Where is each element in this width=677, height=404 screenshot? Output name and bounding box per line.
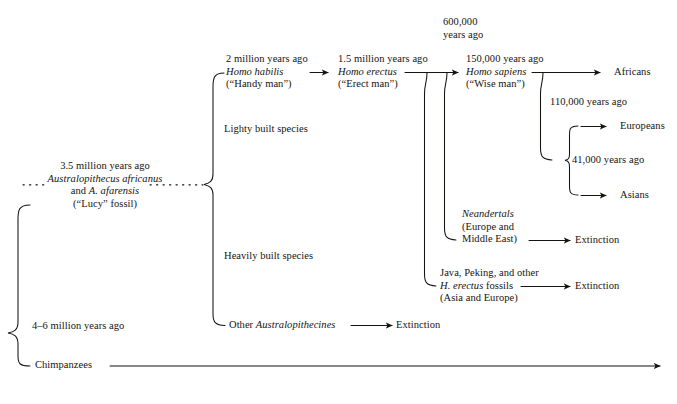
hominid-evolution-diagram: 3.5 million years ago Australopithecus a… bbox=[0, 0, 677, 404]
fossils-text: fossils bbox=[483, 280, 513, 291]
java-peking-line1: Java, Peking, and other bbox=[440, 267, 539, 280]
europeans-label: Europeans bbox=[620, 120, 665, 133]
heavily-built-species-label: Heavily built species bbox=[224, 250, 313, 263]
six-hundred-thousand-line1: 600,000 bbox=[443, 16, 483, 29]
neandertals-region-line1: (Europe and bbox=[462, 221, 517, 234]
homo-sapiens-node: 150,000 years ago Homo sapiens (“Wise ma… bbox=[466, 53, 544, 91]
homo-habilis-age: 2 million years ago bbox=[226, 53, 308, 66]
neandertals-region-line2: Middle East) bbox=[462, 233, 517, 246]
java-peking-node: Java, Peking, and other H. erectus fossi… bbox=[440, 267, 539, 305]
neandertals-name: Neandertals bbox=[462, 208, 517, 221]
other-prefix: Other bbox=[229, 319, 256, 330]
australopithecus-afarensis: and A. afarensis bbox=[45, 185, 165, 198]
africans-label: Africans bbox=[614, 66, 651, 79]
homo-sapiens-nickname: (“Wise man”) bbox=[466, 78, 544, 91]
java-peking-line2: H. erectus fossils bbox=[440, 280, 539, 293]
asians-label: Asians bbox=[620, 189, 649, 202]
austro-and-prefix: and bbox=[71, 185, 89, 196]
neandertals-node: Neandertals (Europe and Middle East) bbox=[462, 208, 517, 246]
lightly-built-species-label: Lighty built species bbox=[224, 123, 308, 136]
homo-habilis-nickname: (“Handy man”) bbox=[226, 78, 308, 91]
homo-erectus-age: 1.5 million years ago bbox=[338, 53, 428, 66]
extinction-h-erectus-label: Extinction bbox=[575, 280, 619, 293]
java-peking-line3: (Asia and Europe) bbox=[440, 292, 539, 305]
homo-habilis-node: 2 million years ago Homo habilis (“Handy… bbox=[226, 53, 308, 91]
australopithecus-species: Australopithecus africanus bbox=[45, 173, 165, 186]
australopithecus-node: 3.5 million years ago Australopithecus a… bbox=[45, 160, 165, 210]
extinction-australopithecines-label: Extinction bbox=[396, 319, 440, 332]
h-erectus-italic: H. erectus bbox=[440, 280, 483, 291]
homo-erectus-name: Homo erectus bbox=[338, 66, 428, 79]
australopithecus-lucy: (“Lucy” fossil) bbox=[45, 198, 165, 211]
one-hundred-ten-thousand-label: 110,000 years ago bbox=[550, 96, 627, 109]
other-australopithecines-label: Other Australopithecines bbox=[229, 319, 335, 332]
extinction-neandertals-label: Extinction bbox=[575, 234, 619, 247]
chimpanzees-label: Chimpanzees bbox=[35, 359, 92, 372]
forty-one-thousand-label: 41,000 years ago bbox=[572, 154, 644, 167]
austro-afarensis-italic: A. afarensis bbox=[89, 185, 139, 196]
homo-habilis-name: Homo habilis bbox=[226, 66, 308, 79]
homo-erectus-node: 1.5 million years ago Homo erectus (“Ere… bbox=[338, 53, 428, 91]
homo-erectus-nickname: (“Erect man”) bbox=[338, 78, 428, 91]
homo-sapiens-name: Homo sapiens bbox=[466, 66, 544, 79]
six-hundred-thousand-node: 600,000 years ago bbox=[443, 16, 483, 41]
root-age-label: 4–6 million years ago bbox=[32, 320, 124, 333]
australopithecines-italic: Australopithecines bbox=[256, 319, 336, 330]
six-hundred-thousand-line2: years ago bbox=[443, 29, 483, 42]
australopithecus-age: 3.5 million years ago bbox=[45, 160, 165, 173]
homo-sapiens-age: 150,000 years ago bbox=[466, 53, 544, 66]
